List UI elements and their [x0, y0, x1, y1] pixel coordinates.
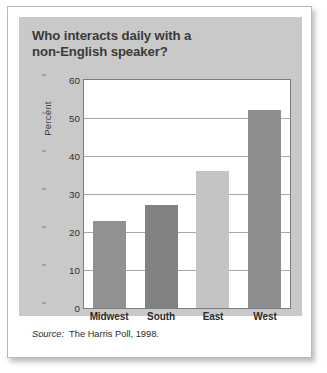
x-axis-label-midwest: Midwest: [83, 311, 135, 322]
y-tick-mark-20: [42, 226, 46, 227]
bar-midwest: [93, 221, 126, 308]
y-tick-label-20: 20: [46, 226, 80, 237]
chart-panel: Who interacts daily with a non-English s…: [19, 17, 302, 316]
y-tick-label-30: 30: [46, 189, 80, 200]
chart-title-line-2: non-English speaker?: [32, 44, 282, 60]
y-tick-label-50: 50: [46, 112, 80, 123]
bar-south: [145, 205, 178, 308]
bar-slot-east: [187, 80, 239, 308]
source-note: Source:The Harris Poll, 1998.: [32, 329, 159, 339]
bar-series: [84, 80, 290, 308]
y-tick-mark-50: [42, 112, 46, 113]
source-label: Source:: [32, 329, 64, 339]
chart-title-line-1: Who interacts daily with a: [32, 28, 282, 44]
bar-slot-midwest: [84, 80, 136, 308]
bar-west: [248, 110, 281, 308]
x-axis-label-south: South: [135, 311, 187, 322]
bar-slot-south: [136, 80, 188, 308]
y-tick-mark-10: [42, 265, 46, 266]
y-tick-label-0: 0: [46, 303, 80, 314]
figure-card: Who interacts daily with a non-English s…: [7, 6, 312, 358]
y-tick-mark-60: [42, 75, 46, 76]
y-tick-label-60: 60: [46, 75, 80, 86]
source-text: The Harris Poll, 1998.: [69, 329, 159, 339]
bar-slot-west: [239, 80, 291, 308]
bar-east: [196, 171, 229, 308]
x-axis-labels: MidwestSouthEastWest: [83, 311, 291, 322]
chart-title: Who interacts daily with a non-English s…: [32, 28, 282, 59]
y-tick-mark-0: [42, 303, 46, 304]
y-tick-label-10: 10: [46, 265, 80, 276]
x-axis-label-west: West: [239, 311, 291, 322]
plot-area: 0102030405060: [83, 79, 291, 309]
y-tick-label-40: 40: [46, 150, 80, 161]
y-tick-mark-30: [42, 189, 46, 190]
x-axis-label-east: East: [187, 311, 239, 322]
y-tick-mark-40: [42, 150, 46, 151]
